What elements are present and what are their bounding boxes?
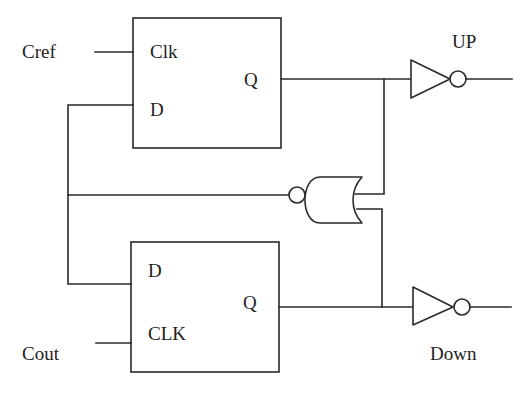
top-d-pin-label: D [150, 100, 164, 119]
cref-label: Cref [22, 42, 56, 61]
inverter-up-icon [411, 60, 512, 98]
up-output-label: UP [452, 32, 476, 51]
top-flipflop-box [133, 18, 281, 148]
circuit-diagram: Cref Clk D Q D CLK Q Cout UP Down [0, 0, 532, 397]
nor-gate-icon [289, 177, 362, 223]
bottom-q-pin-label: Q [243, 293, 257, 312]
top-q-pin-label: Q [244, 70, 258, 89]
bottom-clk-pin-label: CLK [148, 324, 186, 343]
circuit-schematic [0, 0, 532, 397]
inverter-down-icon [413, 287, 511, 325]
down-output-label: Down [430, 344, 476, 363]
cout-label: Cout [22, 344, 59, 363]
bottom-d-pin-label: D [148, 261, 162, 280]
top-clk-pin-label: Clk [150, 42, 177, 61]
